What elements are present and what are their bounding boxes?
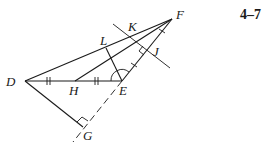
label-K: K bbox=[127, 19, 138, 34]
label-J: J bbox=[153, 44, 160, 59]
label-L: L bbox=[99, 33, 107, 48]
figure-number: 4–7 bbox=[240, 7, 261, 22]
label-H: H bbox=[68, 83, 79, 98]
label-D: D bbox=[5, 74, 16, 89]
label-G: G bbox=[83, 128, 93, 143]
right-angle-mark-G bbox=[77, 117, 88, 122]
segment-EG-dashed bbox=[73, 81, 122, 142]
segment-DF bbox=[25, 19, 172, 81]
label-F: F bbox=[175, 7, 185, 22]
label-E: E bbox=[118, 83, 127, 98]
geometry-diagram: D E F H L G K J 4–7 bbox=[0, 0, 271, 147]
